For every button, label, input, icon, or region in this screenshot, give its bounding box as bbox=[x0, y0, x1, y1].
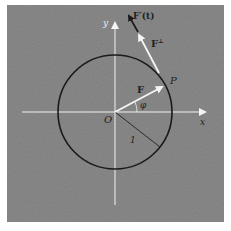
angle-phi-label: φ bbox=[140, 100, 147, 110]
unit-circle-diagram: y x O P F F⊥ F′(t) φ 1 bbox=[0, 0, 231, 231]
radius-label: 1 bbox=[130, 135, 136, 145]
origin-label: O bbox=[104, 114, 112, 125]
vector-f-deriv-label: F′(t) bbox=[133, 11, 154, 21]
y-axis-label: y bbox=[102, 18, 109, 28]
x-axis-label: x bbox=[200, 117, 205, 127]
vector-f-label: F bbox=[137, 84, 144, 95]
point-p-label: P bbox=[169, 75, 177, 86]
